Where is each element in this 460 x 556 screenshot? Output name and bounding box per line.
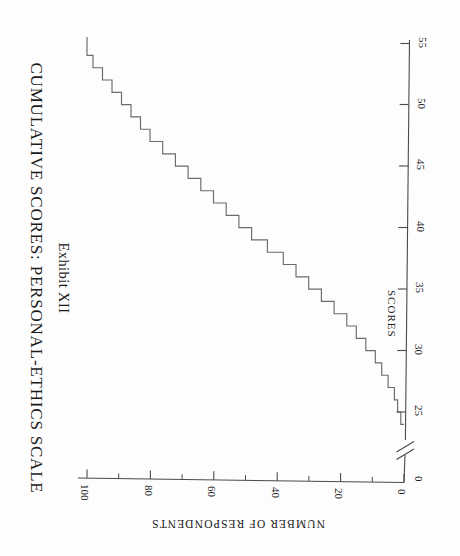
y-ticklabel-100: 100 <box>79 484 91 501</box>
x-ticklabel-55: 55 <box>417 37 429 48</box>
x-axis-group <box>397 40 415 483</box>
chart-plot-area <box>0 0 460 556</box>
x-ticklabel-30: 30 <box>413 344 425 355</box>
x-ticklabel-35: 35 <box>414 282 426 293</box>
x-ticklabel-45: 45 <box>415 159 427 170</box>
y-ticklabel-40: 40 <box>270 487 282 498</box>
figure-page: Exhibit XII CUMULATIVE SCORES: PERSONAL-… <box>0 0 460 556</box>
x-ticklabel-40: 40 <box>415 221 427 232</box>
x-axis-line-lower <box>404 455 405 483</box>
x-axis-line-upper <box>405 40 409 440</box>
y-axis-group <box>78 470 404 483</box>
y-ticklabel-20: 20 <box>333 488 345 499</box>
x-axis-title: SCORES <box>386 290 398 338</box>
y-ticklabel-80: 80 <box>143 485 155 496</box>
y-axis-line <box>78 478 404 483</box>
x-ticklabel-50: 50 <box>416 98 428 109</box>
x-ticklabel-25: 25 <box>413 405 425 416</box>
y-ticklabel-60: 60 <box>206 486 218 497</box>
cumulative-step-curve <box>87 37 404 424</box>
x-ticklabel-0: 0 <box>413 476 425 482</box>
y-ticklabel-0: 0 <box>396 489 408 495</box>
y-axis-title: NUMBER OF RESPONDENTS <box>118 518 358 530</box>
